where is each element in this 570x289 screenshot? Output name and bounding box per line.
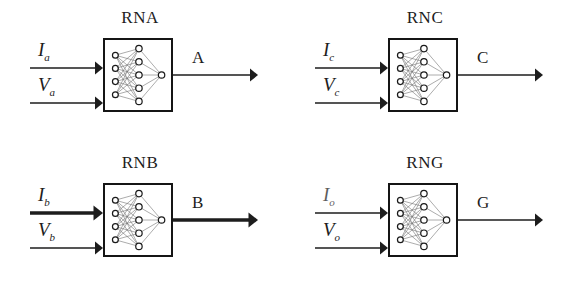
rnc-voltage-input-label: Vc bbox=[323, 74, 340, 98]
symbol: V bbox=[323, 219, 335, 240]
subscript: o bbox=[329, 196, 335, 208]
block-title: RNA bbox=[95, 8, 185, 28]
arrow-rna-voltage-input-head bbox=[95, 97, 103, 110]
rna-current-input-label: Ia bbox=[38, 39, 50, 63]
subscript: c bbox=[329, 51, 334, 63]
arrow-rnb-output-b-head bbox=[249, 213, 259, 228]
hidden-node bbox=[421, 98, 427, 104]
hidden-node bbox=[136, 45, 142, 51]
input-node bbox=[112, 65, 118, 71]
arrow-rng-voltage-input-head bbox=[380, 242, 388, 255]
input-node bbox=[112, 237, 118, 243]
rna-voltage-input-label: Va bbox=[38, 74, 55, 98]
input-node bbox=[112, 92, 118, 98]
hidden-node bbox=[136, 217, 142, 223]
hidden-node bbox=[136, 59, 142, 65]
hidden-node bbox=[136, 243, 142, 249]
rnb-output-b-label: B bbox=[192, 193, 203, 213]
network-box bbox=[388, 38, 458, 112]
input-node bbox=[112, 197, 118, 203]
arrow-rnc-current-input-head bbox=[380, 62, 388, 75]
input-node bbox=[397, 237, 403, 243]
hidden-node bbox=[136, 72, 142, 78]
hidden-node bbox=[421, 217, 427, 223]
block-rna: RNAIaVaA bbox=[0, 0, 285, 144]
subscript: b bbox=[50, 231, 56, 243]
rng-voltage-input-label: Vo bbox=[323, 219, 340, 243]
block-rnb: RNBIbVbB bbox=[0, 145, 285, 289]
output-node bbox=[158, 72, 164, 78]
neural-network-graph bbox=[105, 185, 171, 255]
input-node bbox=[112, 52, 118, 58]
input-node bbox=[397, 52, 403, 58]
subscript: a bbox=[44, 51, 50, 63]
hidden-node bbox=[421, 45, 427, 51]
hidden-node bbox=[421, 204, 427, 210]
symbol: V bbox=[323, 74, 335, 95]
rna-output-a-label: A bbox=[192, 48, 204, 68]
block-rng: RNGIoVoG bbox=[285, 145, 570, 289]
input-node bbox=[397, 210, 403, 216]
arrow-rng-output-g-head bbox=[535, 214, 543, 227]
output-node bbox=[443, 217, 449, 223]
arrow-rnb-voltage-input-head bbox=[95, 242, 103, 255]
block-title: RNG bbox=[380, 153, 470, 173]
hidden-node bbox=[421, 190, 427, 196]
network-box bbox=[103, 38, 173, 112]
network-box bbox=[103, 183, 173, 257]
hidden-node bbox=[421, 243, 427, 249]
hidden-node bbox=[136, 204, 142, 210]
input-node bbox=[397, 224, 403, 230]
hidden-node bbox=[421, 59, 427, 65]
rng-output-g-label: G bbox=[477, 193, 489, 213]
subscript: c bbox=[335, 86, 340, 98]
hidden-node bbox=[136, 98, 142, 104]
symbol: V bbox=[38, 74, 50, 95]
network-box bbox=[388, 183, 458, 257]
input-node bbox=[397, 79, 403, 85]
rnb-current-input-label: Ib bbox=[38, 184, 50, 208]
hidden-node bbox=[136, 230, 142, 236]
subscript: a bbox=[50, 86, 56, 98]
arrow-rnc-output-c-head bbox=[535, 69, 543, 82]
hidden-node bbox=[136, 85, 142, 91]
input-node bbox=[112, 210, 118, 216]
arrow-rng-current-input-head bbox=[380, 207, 388, 220]
output-node bbox=[443, 72, 449, 78]
arrow-rnc-voltage-input-head bbox=[380, 97, 388, 110]
hidden-node bbox=[136, 190, 142, 196]
input-node bbox=[397, 197, 403, 203]
arrow-rna-output-a-head bbox=[250, 69, 258, 82]
block-rnc: RNCIcVcC bbox=[285, 0, 570, 144]
output-node bbox=[158, 217, 164, 223]
symbol: V bbox=[38, 219, 50, 240]
rnb-voltage-input-label: Vb bbox=[38, 219, 55, 243]
block-title: RNB bbox=[95, 153, 185, 173]
hidden-node bbox=[421, 85, 427, 91]
arrow-rna-current-input-head bbox=[95, 62, 103, 75]
subscript: b bbox=[44, 196, 50, 208]
neural-network-graph bbox=[390, 40, 456, 110]
input-node bbox=[397, 92, 403, 98]
hidden-node bbox=[421, 72, 427, 78]
neural-network-graph bbox=[105, 40, 171, 110]
input-node bbox=[112, 79, 118, 85]
rnc-current-input-label: Ic bbox=[323, 39, 334, 63]
rnc-output-c-label: C bbox=[477, 48, 488, 68]
input-node bbox=[397, 65, 403, 71]
rng-current-input-label: Io bbox=[323, 184, 335, 208]
diagram-canvas: RNAIaVaARNCIcVcCRNBIbVbBRNGIoVoG bbox=[0, 0, 570, 289]
arrow-rnb-current-input-head bbox=[94, 206, 104, 221]
hidden-node bbox=[421, 230, 427, 236]
input-node bbox=[112, 224, 118, 230]
subscript: o bbox=[335, 231, 341, 243]
block-title: RNC bbox=[380, 8, 470, 28]
neural-network-graph bbox=[390, 185, 456, 255]
